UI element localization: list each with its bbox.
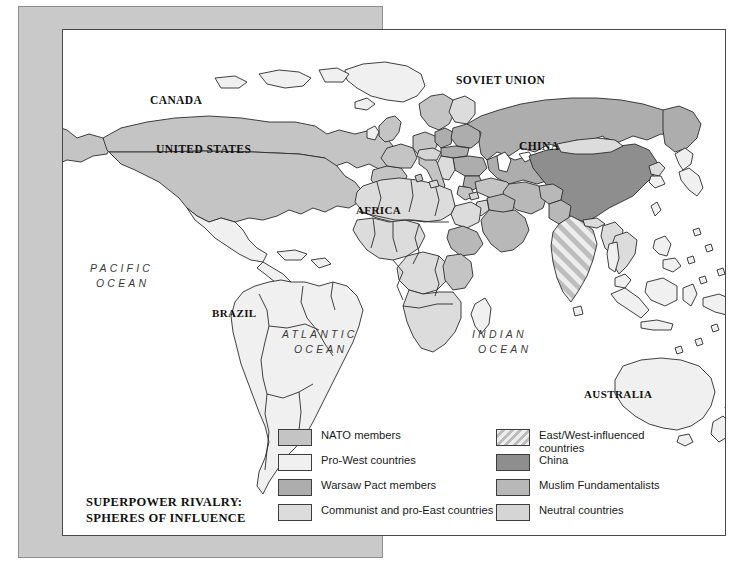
region-pacific-island-8 (675, 346, 683, 354)
legend-label-nato-members: NATO members (321, 428, 401, 442)
region-united-states (109, 151, 363, 222)
region-malaysia (615, 274, 631, 288)
region-japan-2 (679, 168, 703, 196)
region-nepal-bhutan (583, 218, 605, 228)
region-austria-switzerland (417, 148, 441, 160)
map-legend: NATO members Pro-West countries Warsaw P… (278, 428, 698, 528)
region-cuba (277, 250, 307, 260)
legend-item-pro-west-countries: Pro-West countries (278, 453, 496, 471)
region-pacific-island-4 (717, 268, 725, 276)
region-pacific-island-7 (695, 338, 703, 346)
region-pacific-island-6 (711, 324, 719, 332)
legend-swatch-communist-pro-east (278, 504, 312, 521)
region-pacific-island-2 (705, 244, 713, 252)
region-egypt (451, 202, 481, 228)
region-java (641, 320, 673, 330)
legend-swatch-muslim-fundamentalists (496, 479, 530, 496)
legend-label-pro-west-countries: Pro-West countries (321, 453, 416, 467)
region-east-germany (435, 128, 453, 148)
region-arctic-islands (259, 70, 311, 88)
map-title-line2: SPHERES OF INFLUENCE (86, 510, 246, 526)
region-southern-africa (403, 290, 461, 352)
region-south-korea (649, 176, 665, 188)
region-philippines (653, 236, 671, 256)
legend-label-warsaw-pact-members: Warsaw Pact members (321, 478, 436, 492)
region-greenland (345, 62, 425, 102)
legend-swatch-warsaw-pact-members (278, 479, 312, 496)
map-title-line1: SUPERPOWER RIVALRY: (86, 494, 246, 510)
region-mediterranean-island-2 (415, 174, 423, 182)
legend-swatch-east-west-influenced (496, 429, 530, 446)
region-soviet-far-east (663, 106, 701, 152)
legend-label-neutral-countries: Neutral countries (539, 503, 624, 517)
map-title: SUPERPOWER RIVALRY: SPHERES OF INFLUENCE (86, 494, 246, 526)
legend-item-muslim-fundamentalists: Muslim Fundamentalists (496, 478, 698, 496)
region-arctic-islands-2 (319, 68, 349, 82)
region-alaska (63, 126, 111, 166)
legend-item-warsaw-pact-members: Warsaw Pact members (278, 478, 496, 496)
region-pacific-island-5 (699, 276, 707, 284)
region-sumatra (611, 288, 649, 318)
region-saudi-arabia (481, 210, 529, 252)
region-sulawesi (683, 284, 697, 306)
legend-swatch-china (496, 454, 530, 471)
region-cyprus (469, 192, 479, 200)
legend-item-neutral-countries: Neutral countries (496, 503, 698, 521)
legend-item-communist-pro-east: Communist and pro-East countries (278, 503, 496, 521)
region-pacific-island-3 (687, 256, 695, 264)
region-madagascar (471, 298, 491, 334)
region-australia (615, 358, 715, 430)
region-central-africa (397, 252, 449, 294)
region-borneo (645, 278, 677, 306)
legend-swatch-pro-west-countries (278, 454, 312, 471)
region-india (551, 216, 597, 302)
region-taiwan (651, 202, 661, 216)
legend-item-china: China (496, 453, 698, 471)
region-new-guinea (703, 294, 725, 316)
region-sri-lanka (573, 306, 583, 316)
region-iceland (355, 98, 375, 110)
region-hungary-romania (453, 156, 487, 176)
legend-label-east-west-influenced: East/West-influenced countries (539, 428, 651, 455)
region-new-zealand-south (711, 416, 725, 442)
legend-swatch-neutral-countries (496, 504, 530, 521)
legend-item-nato-members: NATO members (278, 428, 496, 446)
region-horn-africa (447, 226, 483, 256)
region-finland (449, 96, 475, 124)
legend-label-muslim-fundamentalists: Muslim Fundamentalists (539, 478, 660, 492)
region-philippines-2 (663, 258, 681, 272)
region-arctic-islands-3 (215, 76, 247, 88)
region-east-africa (443, 254, 473, 290)
legend-label-china: China (539, 453, 568, 467)
region-united-kingdom (379, 116, 401, 142)
region-mediterranean-island-1 (429, 180, 439, 188)
region-west-africa (353, 218, 425, 260)
region-hispaniola (311, 258, 331, 268)
map-figure: CANADA UNITED STATES SOVIET UNION CHINA … (0, 0, 750, 570)
legend-label-communist-pro-east: Communist and pro-East countries (321, 503, 493, 517)
region-pacific-island-1 (693, 228, 701, 236)
legend-item-east-west-influenced: East/West-influenced countries (496, 428, 698, 455)
legend-swatch-nato-members (278, 429, 312, 446)
